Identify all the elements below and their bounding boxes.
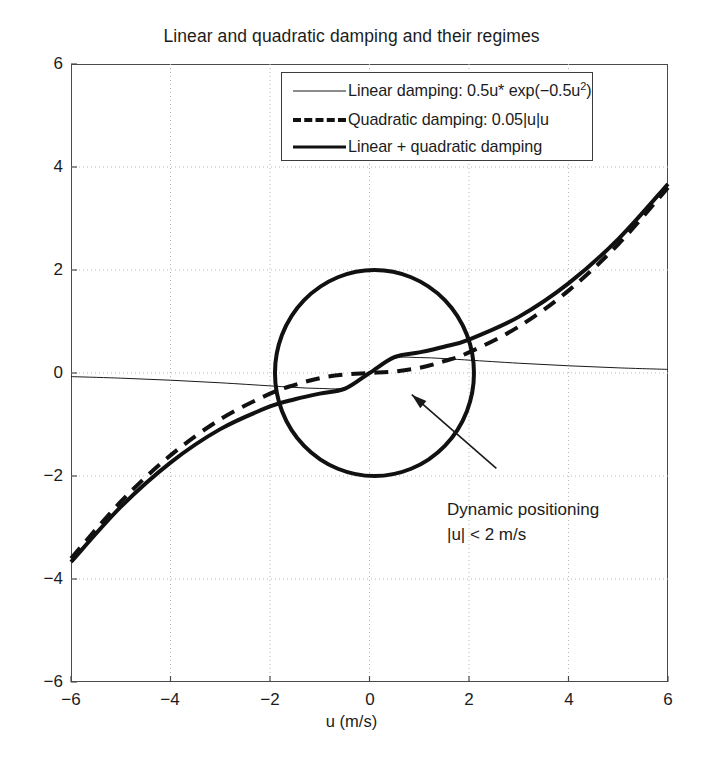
legend-swatch-dashed-icon bbox=[291, 110, 348, 130]
xtick-label: −4 bbox=[145, 690, 195, 710]
ytick-label: −4 bbox=[23, 569, 63, 589]
xtick-label: −2 bbox=[245, 690, 295, 710]
xtick-label: 4 bbox=[544, 690, 594, 710]
annotation-line-2: |u| < 2 m/s bbox=[447, 522, 599, 547]
annotation-dynamic-positioning: Dynamic positioning |u| < 2 m/s bbox=[447, 497, 599, 547]
xtick-label: 2 bbox=[444, 690, 494, 710]
legend-item-quadratic-damping: Quadratic damping: 0.05|u|u bbox=[282, 105, 593, 134]
legend-swatch-thick-solid-icon bbox=[291, 137, 348, 157]
xtick-label: 6 bbox=[643, 690, 693, 710]
annotation-arrow bbox=[412, 395, 497, 469]
legend-item-combined-damping: Linear + quadratic damping bbox=[282, 132, 593, 161]
legend-swatch-thin-solid-icon bbox=[291, 81, 348, 101]
legend-item-linear-damping: Linear damping: 0.5u* exp(−0.5u2) bbox=[282, 76, 593, 105]
figure-container: Linear and quadratic damping and their r… bbox=[0, 0, 703, 765]
legend-label: Linear + quadratic damping bbox=[348, 137, 542, 156]
xtick-label: −6 bbox=[46, 690, 96, 710]
x-axis-label: u (m/s) bbox=[0, 712, 703, 731]
ytick-label: 4 bbox=[23, 157, 63, 177]
ytick-label: −6 bbox=[23, 672, 63, 692]
ytick-label: −2 bbox=[23, 466, 63, 486]
ytick-label: 0 bbox=[23, 363, 63, 383]
ytick-label: 6 bbox=[23, 54, 63, 74]
xtick-label: 0 bbox=[345, 690, 395, 710]
chart-legend: Linear damping: 0.5u* exp(−0.5u2) Quadra… bbox=[281, 72, 593, 161]
legend-label: Quadratic damping: 0.05|u|u bbox=[348, 110, 549, 129]
annotation-line-1: Dynamic positioning bbox=[447, 497, 599, 522]
legend-label: Linear damping: 0.5u* exp(−0.5u2) bbox=[348, 80, 592, 100]
ytick-label: 2 bbox=[23, 260, 63, 280]
